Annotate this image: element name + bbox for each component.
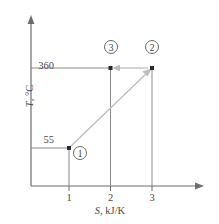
x-axis-arrowhead <box>195 183 204 190</box>
y-axis-arrowhead <box>28 15 35 24</box>
x-tick-label-3: 3 <box>144 192 160 203</box>
y-axis-label: T, °C <box>24 66 35 126</box>
y-axis-symbol: T <box>24 101 35 107</box>
x-axis-label: S, kJ/K <box>60 205 160 216</box>
state-label-2: 2 <box>145 40 159 54</box>
process-arrow-1-to-2 <box>70 72 149 148</box>
y-axis-unit: , °C <box>24 85 35 101</box>
x-tick-label-2: 2 <box>103 192 119 203</box>
process-arrowhead-2-to-3 <box>112 65 120 71</box>
state-label-1: 1 <box>73 146 87 160</box>
point-state-1 <box>67 146 71 150</box>
state-label-3: 3 <box>104 40 118 54</box>
ts-diagram-figure: 360 55 1 2 3 T, °C S, kJ/K 1 2 3 <box>0 0 219 224</box>
x-axis-ticks <box>69 186 152 191</box>
x-axis-unit: , kJ/K <box>100 205 125 216</box>
point-state-2 <box>150 66 154 70</box>
y-value-label-55: 55 <box>0 134 54 145</box>
x-tick-label-1: 1 <box>61 192 77 203</box>
point-state-3 <box>109 66 113 70</box>
